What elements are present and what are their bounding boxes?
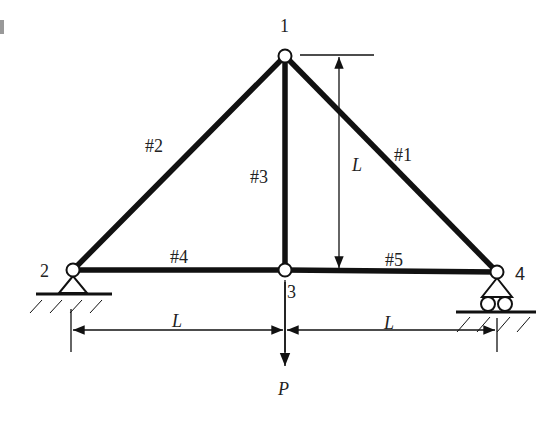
member-label-5: #5 <box>385 251 403 269</box>
dimension-label-vertical: L <box>352 156 362 174</box>
load-label: P <box>278 380 289 398</box>
dimension-horizontal <box>71 280 497 352</box>
node-2 <box>67 264 80 277</box>
roller-support-icon <box>456 278 536 332</box>
member-label-4: #4 <box>170 248 188 266</box>
truss-diagram: 1 2 3 4 #1 #2 #3 #4 #5 L L L P <box>0 0 555 423</box>
truss-drawing <box>0 0 555 423</box>
pin-support-icon <box>30 276 112 313</box>
member-5 <box>285 270 497 272</box>
dimension-label-right: L <box>384 314 394 332</box>
member-1 <box>285 56 497 272</box>
member-label-1: #1 <box>394 146 412 164</box>
node-label-2: 2 <box>40 262 49 280</box>
node-4 <box>491 266 504 279</box>
member-2 <box>73 56 285 270</box>
node-3 <box>279 264 292 277</box>
node-label-1: 1 <box>280 17 289 35</box>
node-1 <box>279 50 292 63</box>
members <box>73 56 497 272</box>
member-label-3: #3 <box>250 168 268 186</box>
dimension-vertical <box>300 55 374 268</box>
dimension-label-left: L <box>172 312 182 330</box>
node-label-4: 4 <box>515 265 525 283</box>
member-label-2: #2 <box>145 137 163 155</box>
node-label-3: 3 <box>287 283 296 301</box>
